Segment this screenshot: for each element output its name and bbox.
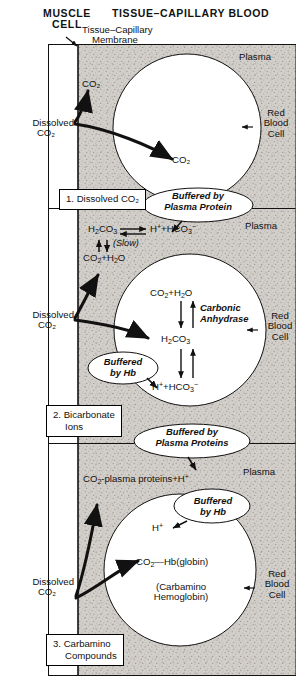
plasma-label-3: Plasma: [243, 467, 275, 477]
rbc-label-2-line3: Cell: [262, 332, 298, 342]
plasma-label-1: Plasma: [239, 52, 271, 62]
membrane-label-line2: Membrane: [92, 35, 138, 45]
figure-canvas: MUSCLE CELL TISSUE–CAPILLARY BLOOD Tissu…: [0, 0, 308, 693]
callout-2-line1: Buffered: [95, 357, 151, 368]
callout-3-hb-line2: by Hb: [186, 507, 240, 518]
callout-3-hb-line1: Buffered: [186, 496, 240, 507]
rbc-label-2: Red Blood Cell: [262, 311, 298, 342]
callout-1-line1: Buffered by: [150, 191, 246, 202]
panel-label-1-text: 1. Dissolved CO₂: [66, 193, 139, 204]
panel-label-3: 3. Carbamino Compounds: [46, 634, 124, 666]
callout-text-buffered-hb-3: Buffered by Hb: [186, 496, 240, 517]
rbc-reaction-co2-h2o: CO2+H2O: [150, 288, 192, 300]
page-title-tissue-capillary-blood: TISSUE–CAPILLARY BLOOD: [112, 8, 269, 19]
rbc-reaction-h2co3: H2CO3: [161, 334, 190, 346]
callout-2-line2: by Hb: [95, 368, 151, 379]
dissolved-co2-1: CO₂: [18, 128, 74, 138]
panel-label-2-line1: 2. Bicarbonate: [53, 409, 115, 420]
panel-label-3-line2: Compounds: [53, 650, 117, 662]
plasma-product-carbamino: CO2-plasma proteins+H+: [83, 474, 189, 486]
rbc-label-1-line3: Cell: [258, 129, 294, 139]
species-proton-3: H+: [152, 523, 163, 533]
panel-label-3-line1: 3. Carbamino: [53, 638, 111, 649]
species-co2-rbc-1: CO₂: [172, 155, 190, 165]
rbc-reaction-h-hco3: H++HCO3−: [152, 382, 198, 394]
callout-1-line2: Plasma Protein: [150, 202, 246, 213]
rbc-note-line2: Hemoglobin): [128, 592, 234, 602]
dissolved-co2-2: CO₂: [20, 320, 74, 330]
dissolved-co2-3: CO₂: [20, 587, 74, 597]
callout-3-top-line2: Plasma Proteins: [137, 438, 247, 449]
callout-text-plasma-proteins-3: Buffered by Plasma Proteins: [137, 427, 247, 448]
plasma-reaction-co2-h2o: CO2+H2O: [83, 253, 125, 265]
panel-label-2-line2: Ions: [53, 421, 115, 433]
plasma-reaction-rate-label: (Slow): [113, 239, 139, 249]
dissolved-co2-source-3: Dissolved CO₂: [20, 577, 74, 598]
callout-text-buffered-hb-2: Buffered by Hb: [95, 357, 151, 378]
dissolved-co2-source-2: Dissolved CO₂: [20, 310, 74, 331]
panel-label-2: 2. Bicarbonate Ions: [46, 405, 122, 437]
rbc-product-note-3: (Carbamino Hemoglobin): [128, 582, 234, 603]
panel-label-1: 1. Dissolved CO₂: [59, 189, 146, 210]
rbc-product-carbamino-hb: CO2—Hb(globin): [136, 557, 208, 569]
plasma-label-2: Plasma: [245, 221, 277, 231]
callout-3-top-line1: Buffered by: [137, 427, 247, 438]
plasma-reaction-products: H++HCO3−: [150, 224, 196, 236]
rbc-label-3-line3: Cell: [259, 590, 295, 600]
species-co2-plasma-1: CO₂: [82, 79, 100, 89]
red-blood-cell-1: [113, 54, 261, 202]
dissolved-co2-source-1: Dissolved CO₂: [18, 118, 74, 139]
plasma-reaction-h2co3: H2CO3: [88, 224, 117, 236]
callout-text-plasma-protein-1: Buffered by Plasma Protein: [150, 191, 246, 212]
rbc-label-3: Red Blood Cell: [259, 569, 295, 600]
rbc-label-1: Red Blood Cell: [258, 108, 294, 139]
